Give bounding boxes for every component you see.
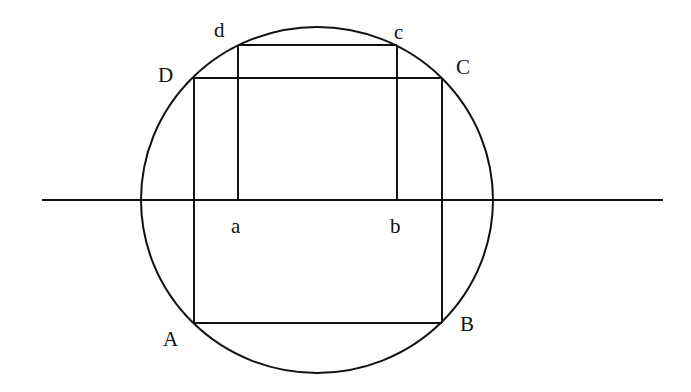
- geometry-diagram: A B C D a b c d: [0, 0, 691, 392]
- label-d: d: [214, 18, 225, 42]
- label-a: a: [231, 214, 241, 238]
- label-A: A: [163, 327, 179, 351]
- label-B: B: [460, 312, 474, 336]
- label-b: b: [390, 214, 401, 238]
- label-c: c: [394, 20, 403, 44]
- label-D: D: [158, 63, 173, 87]
- label-C: C: [456, 55, 470, 79]
